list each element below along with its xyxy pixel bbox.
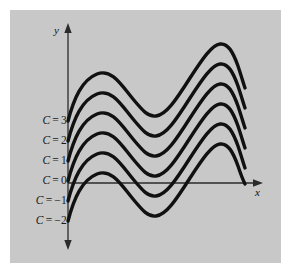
curve-label-c2-eq: = bbox=[50, 134, 61, 146]
y-axis-arrowhead bbox=[64, 23, 71, 33]
curve-label-cm1-var: C bbox=[36, 194, 44, 206]
x-axis-label: x bbox=[254, 186, 260, 198]
curve-label-c0-eq: = bbox=[50, 174, 61, 186]
figure-root: y x C=3 C=2 C=1 C=0 C=−1 C=−2 bbox=[0, 0, 291, 272]
curve-label-c0: C=0 bbox=[42, 174, 67, 186]
curve-label-cm2-eq: = bbox=[44, 214, 55, 226]
curve-label-c1: C=1 bbox=[42, 154, 67, 166]
curve-label-c3-value: 3 bbox=[61, 114, 67, 126]
curve-c3 bbox=[68, 44, 245, 121]
curve-label-c1-value: 1 bbox=[61, 154, 67, 166]
curve-label-c0-value: 0 bbox=[61, 174, 67, 186]
curve-label-c2: C=2 bbox=[42, 134, 67, 146]
curve-label-cm2-var: C bbox=[36, 214, 44, 226]
curve-label-cm2: C=−2 bbox=[36, 214, 67, 226]
curve-label-c3: C=3 bbox=[42, 114, 67, 126]
curve-label-cm1-value: −1 bbox=[54, 194, 67, 206]
curve-label-c1-eq: = bbox=[50, 154, 61, 166]
curve-label-c2-value: 2 bbox=[61, 134, 67, 146]
curve-label-cm2-value: −2 bbox=[54, 214, 67, 226]
y-axis-bottom-arrowhead bbox=[64, 240, 71, 250]
curve-label-cm1: C=−1 bbox=[36, 194, 67, 206]
curve-label-c3-eq: = bbox=[50, 114, 61, 126]
curve-label-cm1-eq: = bbox=[44, 194, 55, 206]
y-axis-label: y bbox=[53, 24, 59, 36]
curve-family bbox=[68, 44, 245, 221]
